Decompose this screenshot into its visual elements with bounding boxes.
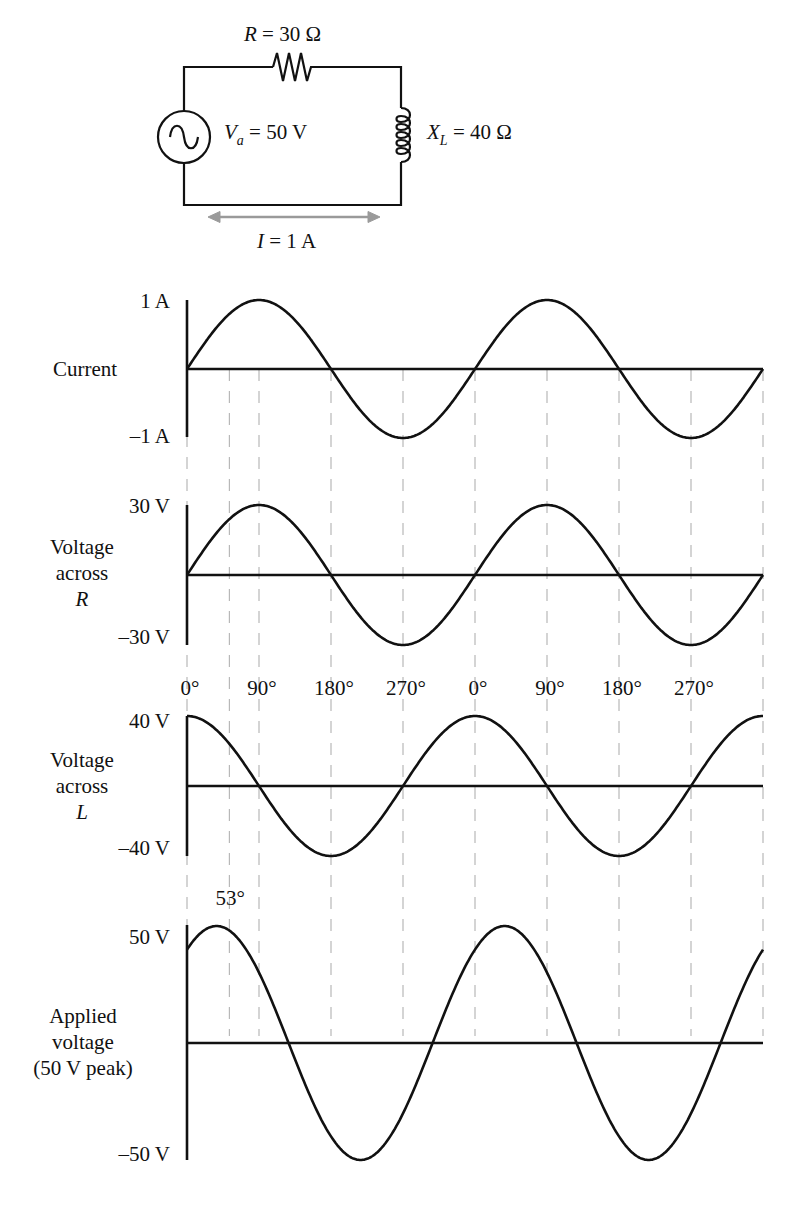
phase-angle-annotation: 53°	[215, 886, 244, 910]
vl-title-line: across	[27, 773, 137, 799]
rl-series-circuit-figure: R = 30 Ω Va = 50 V XL = 40 Ω I = 1 A 1 A…	[0, 0, 806, 1206]
degree-label: 90°	[535, 676, 564, 700]
degree-label: 0°	[469, 676, 488, 700]
current-min-label: –1 A	[60, 424, 170, 448]
degree-label: 270°	[674, 676, 714, 700]
degree-label: 90°	[247, 676, 276, 700]
phase-gridlines	[187, 369, 763, 1036]
current-panel-title: Current	[30, 356, 140, 382]
vr-min-label: –30 V	[60, 625, 170, 649]
va-title-line: (50 V peak)	[8, 1055, 158, 1081]
vr-max-label: 30 V	[60, 494, 170, 518]
vr-title-line: Voltage	[27, 534, 137, 560]
va-title-line: voltage	[8, 1029, 158, 1055]
va-min-label: –50 V	[60, 1142, 170, 1166]
current-title-line: Current	[30, 356, 140, 382]
vr-title-line: across	[27, 560, 137, 586]
vl-title-line: L	[27, 799, 137, 825]
degree-label: 180°	[602, 676, 642, 700]
current-max-label: 1 A	[60, 289, 170, 313]
va-title-line: Applied	[8, 1003, 158, 1029]
degree-label: 270°	[386, 676, 426, 700]
vl-min-label: –40 V	[60, 836, 170, 860]
degree-label: 180°	[314, 676, 354, 700]
vr-title-line: R	[27, 586, 137, 612]
vl-title-line: Voltage	[27, 747, 137, 773]
vl-max-label: 40 V	[60, 709, 170, 733]
degree-label: 0°	[181, 676, 200, 700]
va-max-label: 50 V	[60, 925, 170, 949]
vr-panel-title: Voltage across R	[27, 534, 137, 612]
va-panel-title: Applied voltage (50 V peak)	[8, 1003, 158, 1081]
vl-panel-title: Voltage across L	[27, 747, 137, 825]
